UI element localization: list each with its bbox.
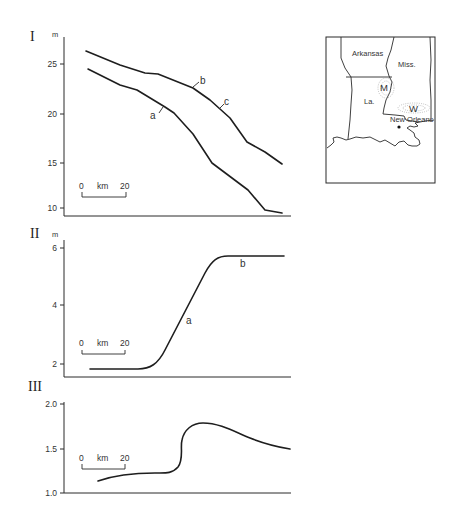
- leader-b: [193, 82, 199, 87]
- map-frame: [326, 37, 435, 183]
- new-orleans-dot-icon: [397, 125, 400, 128]
- coastline: [327, 120, 434, 148]
- scale-bar-line: [82, 192, 126, 197]
- leader-a: [159, 107, 163, 113]
- tick-label: 20: [48, 109, 58, 119]
- tick-label: 2: [52, 359, 57, 369]
- scale-unit: km: [97, 453, 108, 463]
- map-label-w: W: [409, 103, 418, 114]
- scale-start: 0: [79, 338, 84, 348]
- panel-i-scale-bar: 0 km 20: [79, 181, 130, 197]
- figure-canvas: I m 25 20 15 10 0 km 20 b c a: [0, 0, 460, 524]
- map-label-arkansas: Arkansas: [352, 49, 384, 58]
- tick-label: 15: [48, 158, 58, 168]
- panel-ii: II m 6 4 2 0 km 20 a b: [30, 226, 291, 377]
- panel-ii-unit: m: [52, 230, 58, 239]
- scale-bar-line: [82, 464, 125, 469]
- panel-i-lower-curve: [88, 69, 282, 213]
- map-label-m: M: [380, 82, 388, 93]
- map-label-la: La.: [364, 97, 374, 106]
- scale-end: 20: [120, 338, 130, 348]
- curve-label-b: b: [240, 258, 246, 269]
- panel-iii-curve: [98, 423, 290, 481]
- scale-end: 20: [120, 453, 130, 463]
- location-map: Arkansas Miss. M La. W New Orleans: [326, 37, 435, 183]
- tick-label: 6: [52, 243, 57, 253]
- scale-unit: km: [97, 338, 108, 348]
- tick-label: 4: [52, 300, 57, 310]
- scale-bar-line: [82, 350, 125, 354]
- curve-label-a: a: [150, 110, 156, 121]
- miss-east-border: [430, 37, 431, 118]
- panel-ii-label: II: [30, 226, 40, 241]
- scale-end: 20: [120, 181, 130, 191]
- panel-ii-curve: [90, 256, 284, 369]
- scale-unit: km: [97, 181, 108, 191]
- curve-label-b: b: [200, 75, 206, 86]
- panel-iii-scale-bar: 0 km 20: [79, 453, 130, 469]
- curve-label-c: c: [224, 96, 229, 107]
- tick-label: 2.0: [45, 399, 57, 409]
- panel-ii-scale-bar: 0 km 20: [79, 338, 130, 354]
- panel-iii: III 2.0 1.5 1.0 0 km 20: [28, 379, 291, 498]
- scale-start: 0: [79, 181, 84, 191]
- tick-label: 1.5: [45, 444, 57, 454]
- tick-label: 25: [48, 59, 58, 69]
- curve-label-a: a: [186, 315, 192, 326]
- map-label-new-orleans: New Orleans: [390, 115, 434, 124]
- west-border: [341, 37, 352, 139]
- scale-start: 0: [79, 453, 84, 463]
- panel-i-upper-curve: [86, 51, 282, 164]
- map-label-miss: Miss.: [398, 60, 416, 69]
- panel-i-label: I: [30, 29, 35, 44]
- tick-label: 1.0: [45, 488, 57, 498]
- panel-i: I m 25 20 15 10 0 km 20 b c a: [30, 29, 291, 216]
- panel-i-unit: m: [52, 30, 58, 39]
- tick-label: 10: [48, 203, 58, 213]
- panel-iii-label: III: [28, 379, 42, 394]
